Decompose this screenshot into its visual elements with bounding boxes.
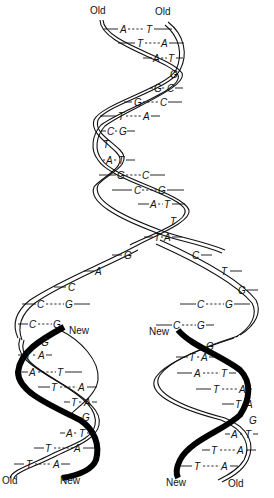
svg-text:C: C [160, 97, 168, 108]
svg-text:A: A [236, 445, 244, 456]
label-bottom-right-old: Old [228, 478, 244, 489]
svg-text:A: A [65, 428, 73, 439]
svg-text:C: C [142, 170, 150, 181]
svg-text:G: G [238, 285, 246, 296]
label-bottom-right-new: New [166, 477, 187, 488]
base-pair: G [82, 412, 90, 423]
base-pair: T A [222, 399, 253, 410]
svg-text:C: C [68, 282, 76, 293]
svg-text:T: T [194, 461, 201, 472]
base-pair: G [206, 341, 214, 352]
svg-text:A: A [200, 352, 208, 363]
svg-text:A: A [149, 199, 157, 210]
svg-text:G: G [170, 69, 178, 80]
svg-text:G: G [119, 126, 127, 137]
svg-text:T: T [71, 397, 78, 408]
svg-text:A: A [73, 443, 81, 454]
svg-text:T: T [26, 459, 33, 470]
svg-text:A: A [28, 367, 36, 378]
base-pair: C G [18, 319, 61, 330]
svg-text:A: A [193, 368, 201, 379]
base-pair: G [170, 69, 178, 80]
svg-text:C: C [197, 299, 205, 310]
svg-text:G: G [206, 341, 214, 352]
svg-text:G: G [249, 415, 257, 426]
svg-text:A: A [52, 459, 60, 470]
svg-text:A: A [220, 461, 228, 472]
svg-text:A: A [37, 350, 45, 361]
svg-text:A: A [245, 399, 253, 410]
svg-text:T: T [25, 350, 32, 361]
svg-text:G: G [134, 97, 142, 108]
svg-text:G: G [158, 185, 166, 196]
svg-text:A: A [77, 382, 85, 393]
label-bottom-left-new: New [60, 475, 81, 486]
base-pair: T [103, 139, 110, 150]
svg-text:T: T [57, 367, 64, 378]
svg-text:T: T [45, 443, 52, 454]
svg-text:G: G [41, 337, 49, 348]
svg-text:A: A [163, 232, 171, 243]
base-pair: G [249, 415, 257, 426]
svg-text:G: G [82, 412, 90, 423]
svg-text:T: T [118, 155, 125, 166]
svg-text:T: T [213, 384, 220, 395]
svg-text:T: T [245, 429, 252, 440]
svg-text:G: G [154, 83, 162, 94]
svg-text:T: T [137, 38, 144, 49]
svg-text:A: A [142, 111, 150, 122]
base-pair: C G [101, 126, 135, 137]
svg-text:A: A [160, 38, 168, 49]
svg-text:T: T [154, 232, 161, 243]
svg-text:G: G [53, 319, 61, 330]
base-pair: G C [150, 83, 183, 94]
svg-text:A: A [238, 384, 246, 395]
svg-text:T: T [211, 445, 218, 456]
svg-text:T: T [189, 352, 196, 363]
svg-text:T: T [221, 266, 228, 277]
parent-base-pairs: A T T A A T G G C [99, 24, 185, 243]
base-pair: C G [22, 299, 90, 310]
svg-text:G: G [117, 170, 125, 181]
base-pair: T A [14, 459, 70, 470]
svg-text:C: C [134, 185, 142, 196]
svg-text:A: A [119, 24, 127, 35]
svg-text:T: T [168, 53, 175, 64]
svg-text:T: T [103, 139, 110, 150]
base-pair: T A [196, 384, 252, 395]
svg-text:T: T [164, 199, 171, 210]
svg-text:A: A [152, 53, 160, 64]
label-top-right-old: Old [155, 6, 171, 17]
svg-text:C: C [107, 126, 115, 137]
svg-text:T: T [235, 399, 242, 410]
svg-text:T: T [79, 428, 86, 439]
svg-text:G: G [225, 299, 233, 310]
label-bottom-left-old: Old [2, 475, 18, 486]
svg-text:T: T [221, 368, 228, 379]
svg-text:C: C [29, 319, 37, 330]
base-pair: A T [103, 155, 135, 166]
svg-text:A: A [105, 155, 113, 166]
base-pair: A T [104, 24, 172, 35]
dna-replication-diagram: A T T A A T G G C [0, 0, 274, 498]
svg-text:A: A [83, 397, 91, 408]
label-fork-right-new: New [149, 326, 170, 337]
svg-text:C: C [173, 320, 181, 331]
label-top-left-old: Old [90, 5, 106, 16]
svg-text:G: G [65, 299, 73, 310]
base-pair: A T [138, 199, 185, 210]
svg-text:C: C [167, 83, 175, 94]
label-fork-left-new: New [69, 325, 90, 336]
replication-fork [15, 240, 258, 340]
base-pair: T A [180, 461, 238, 472]
base-pair: C G [112, 185, 184, 196]
svg-text:C: C [37, 299, 45, 310]
svg-text:T: T [170, 216, 177, 227]
fork-right-bases: C T G [192, 250, 258, 296]
svg-text:T: T [118, 111, 125, 122]
svg-text:A: A [230, 429, 238, 440]
base-pair: A T [177, 368, 236, 379]
base-pair: T [170, 216, 177, 227]
svg-text:C: C [192, 250, 200, 261]
base-pair: A T [143, 53, 183, 64]
